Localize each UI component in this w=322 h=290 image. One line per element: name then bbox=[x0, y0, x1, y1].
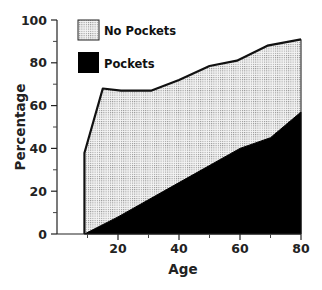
y-tick-label: 100 bbox=[21, 13, 47, 28]
y-axis-title: Percentage bbox=[12, 84, 28, 171]
no-pockets-swatch bbox=[78, 20, 99, 40]
x-axis: 20406080 bbox=[57, 234, 310, 256]
pockets-swatch bbox=[78, 52, 99, 73]
legend: No Pockets Pockets bbox=[78, 20, 176, 73]
x-tick-label: 80 bbox=[292, 241, 310, 256]
x-axis-title: Age bbox=[168, 261, 197, 277]
y-tick-label: 60 bbox=[30, 98, 48, 113]
legend-label-pockets: Pockets bbox=[104, 57, 155, 71]
x-tick-label: 20 bbox=[109, 241, 127, 256]
legend-label-no-pockets: No Pockets bbox=[104, 24, 176, 38]
legend-item-pockets: Pockets bbox=[78, 52, 155, 73]
x-tick-label: 60 bbox=[231, 241, 249, 256]
y-tick-label: 80 bbox=[30, 55, 48, 70]
x-tick-label: 40 bbox=[170, 241, 188, 256]
y-tick-label: 20 bbox=[30, 184, 48, 199]
y-tick-label: 40 bbox=[30, 141, 48, 156]
area-chart: 020406080100 20406080 Percentage Age No … bbox=[0, 0, 322, 290]
y-tick-label: 0 bbox=[38, 227, 47, 242]
legend-item-no-pockets: No Pockets bbox=[78, 20, 176, 40]
